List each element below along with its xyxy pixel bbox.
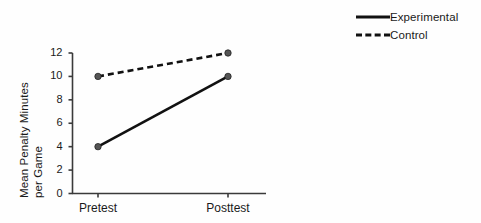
y-axis-tick-label: 6 [43, 117, 63, 128]
y-axis-tick-label: 2 [43, 164, 63, 175]
plot-area: 024681012 PretestPosttest [0, 0, 481, 223]
series-line-experimental [98, 76, 228, 146]
x-axis-tick-label: Pretest [48, 202, 148, 215]
data-point-control [95, 73, 101, 79]
y-axis-tick-label: 4 [43, 141, 63, 152]
plot-svg [0, 0, 481, 223]
series-layer [95, 50, 231, 150]
y-axis-tick-label: 10 [43, 70, 63, 81]
axes [72, 53, 266, 194]
y-axis-tick-label: 0 [43, 188, 63, 199]
y-axis-tick-label: 8 [43, 94, 63, 105]
x-axis-tick-label: Posttest [178, 202, 278, 215]
series-line-control [98, 53, 228, 76]
y-axis-tick-label: 12 [43, 47, 63, 58]
data-point-control [225, 50, 231, 56]
chart-screenshot: Experimental Control Mean Penalty Minute… [0, 0, 481, 223]
data-point-experimental [95, 143, 101, 149]
data-point-experimental [225, 73, 231, 79]
